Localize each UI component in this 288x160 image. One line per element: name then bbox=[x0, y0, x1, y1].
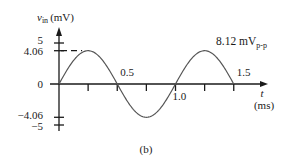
x-axis-symbol: t bbox=[260, 87, 264, 99]
x-axis-unit: (ms) bbox=[254, 99, 275, 112]
y-tick-label: −5 bbox=[31, 120, 43, 132]
peak-to-peak-annotation: 8.12 mVp-p bbox=[216, 35, 267, 50]
x-tick-label: 0.5 bbox=[120, 66, 134, 78]
waveform-plot: 54.060−4.06−5 0.51.01.5 vin(mV) t (ms) 8… bbox=[0, 0, 288, 160]
y-ticks: 54.060−4.06−5 bbox=[18, 34, 64, 132]
y-axis-unit: (mV) bbox=[50, 11, 74, 24]
annotation-main: 8.12 mV bbox=[216, 35, 257, 47]
y-axis-subscript: in bbox=[42, 16, 48, 25]
figure-caption: (b) bbox=[140, 143, 153, 156]
x-tick-label: 1.5 bbox=[237, 66, 251, 78]
x-tick-label: 1.0 bbox=[173, 90, 187, 102]
y-axis-label: vin(mV) bbox=[37, 11, 74, 25]
y-tick-label: 4.06 bbox=[24, 45, 44, 57]
y-axis-arrow-icon bbox=[56, 27, 62, 36]
y-tick-label: 5 bbox=[38, 34, 44, 46]
y-tick-label: 0 bbox=[38, 78, 44, 90]
waveform-figure: 54.060−4.06−5 0.51.01.5 vin(mV) t (ms) 8… bbox=[0, 0, 288, 160]
annotation-subscript: p-p bbox=[256, 41, 267, 50]
